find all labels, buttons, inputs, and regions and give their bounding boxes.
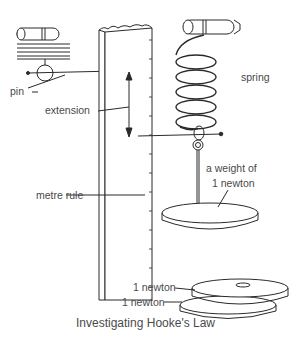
label-stack-top: 1 newton — [133, 282, 176, 293]
label-pin: pin — [10, 86, 24, 97]
label-weight-line1: a weight of — [206, 163, 257, 174]
label-metre-rule: metre rule — [36, 190, 83, 201]
label-spring: spring — [241, 72, 270, 83]
label-extension: extension — [45, 105, 90, 116]
spring — [176, 35, 216, 130]
label-stack-bottom: 1 newton — [122, 297, 165, 308]
slotted-weights — [164, 279, 288, 319]
diagram-title: Investigating Hooke's Law — [76, 316, 215, 330]
spring-clamp-rod — [183, 20, 240, 34]
label-weight-line2: 1 newton — [212, 178, 255, 189]
metre-rule — [99, 25, 152, 300]
